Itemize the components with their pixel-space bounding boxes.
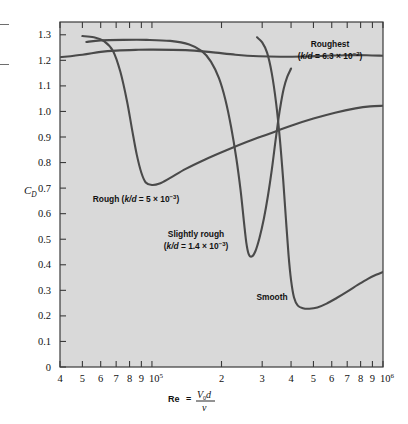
slightly-rough-label: Slightly rough: [168, 229, 224, 239]
y-tick-label: 0.4: [38, 259, 52, 270]
x-axis-label-denominator: ν: [202, 402, 207, 413]
x-axis-label-equals: =: [186, 394, 191, 404]
x-tick-label: 6: [329, 373, 334, 384]
x-axis-label-re: Re: [168, 394, 180, 404]
x-tick-label: 6: [98, 373, 103, 384]
x-axis-label: Re = V0d ν: [168, 389, 215, 413]
y-tick-label: 0.2: [38, 310, 51, 321]
figure-container: 00.10.20.30.40.50.60.70.80.91.01.11.21.3…: [0, 0, 408, 424]
smooth-label: Smooth: [256, 292, 287, 302]
y-tick-label: 1.1: [38, 80, 51, 91]
x-axis-tick-labels: 45678910523456789106: [57, 372, 394, 384]
x-tick-label: 3: [260, 373, 265, 384]
x-tick-label: 105: [149, 372, 164, 384]
x-tick-label: 4: [57, 373, 63, 384]
x-tick-label: 8: [127, 373, 132, 384]
x-tick-label: 4: [288, 373, 294, 384]
x-tick-label: 7: [345, 373, 350, 384]
y-tick-label: 0: [46, 362, 51, 373]
x-tick-label: 9: [139, 373, 144, 384]
y-tick-label: 0.1: [38, 336, 51, 347]
x-tick-label: 2: [219, 373, 224, 384]
x-tick-label: 5: [80, 373, 85, 384]
rough-label: Rough (k/d = 5 × 10−3): [93, 194, 180, 204]
roughest-label: Roughest: [311, 39, 350, 49]
y-tick-label: 0.6: [38, 208, 51, 219]
y-axis-label: CD: [24, 184, 37, 199]
drag-coefficient-vs-reynolds-chart: 00.10.20.30.40.50.60.70.80.91.01.11.21.3…: [0, 0, 408, 424]
y-tick-label: 1.2: [38, 55, 51, 66]
y-tick-label: 1.0: [38, 106, 51, 117]
x-axis-label-numerator: V0d: [197, 389, 212, 401]
x-tick-label: 8: [358, 373, 363, 384]
y-tick-label: 1.3: [38, 29, 51, 40]
y-tick-label: 0.5: [38, 234, 51, 245]
y-tick-label: 0.3: [38, 285, 51, 296]
x-tick-label: 7: [114, 373, 119, 384]
x-tick-label: 106: [380, 372, 395, 384]
y-axis-tick-labels: 00.10.20.30.40.50.60.70.80.91.01.11.21.3: [38, 29, 52, 372]
y-tick-label: 0.8: [38, 157, 51, 168]
y-tick-label: 0.7: [38, 183, 51, 194]
x-tick-label: 9: [370, 373, 375, 384]
y-tick-label: 0.9: [38, 132, 51, 143]
x-tick-label: 5: [311, 373, 316, 384]
